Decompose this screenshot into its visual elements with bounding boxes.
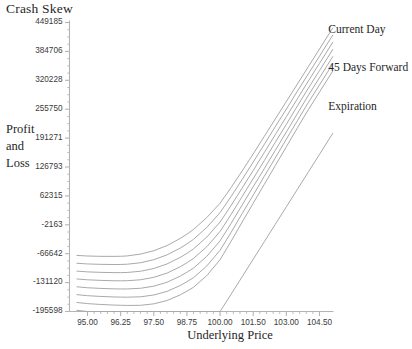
chart-canvas: Crash Skew Profit and Loss Underlying Pr…	[0, 0, 412, 349]
x-tick-label: 104.50	[300, 318, 340, 327]
y-tick-label: 320228	[13, 75, 63, 84]
series-label: Expiration	[328, 100, 377, 112]
y-tick-label: 384706	[13, 46, 63, 55]
y-tick-label: -195598	[13, 306, 63, 315]
y-tick-label: 126793	[13, 162, 63, 171]
series-label: 45 Days Forward	[328, 61, 408, 73]
y-tick-label: 62315	[13, 191, 63, 200]
y-tick-label: -131120	[13, 277, 63, 286]
y-tick-label: -66642	[13, 249, 63, 258]
y-tick-label: -2163	[13, 220, 63, 229]
series-label: Current Day	[328, 23, 385, 35]
y-tick-label: 449185	[13, 17, 63, 26]
y-tick-label: 191271	[13, 133, 63, 142]
y-tick-label: 255750	[13, 104, 63, 113]
